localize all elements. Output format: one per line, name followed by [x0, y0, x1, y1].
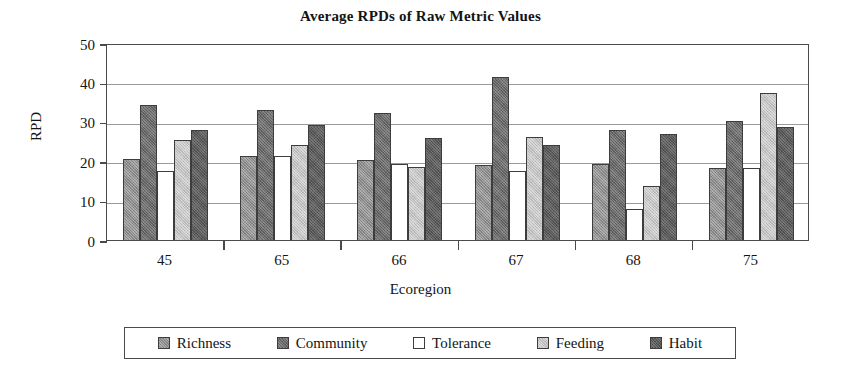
bar-community-66 [374, 113, 391, 240]
legend-item-habit[interactable]: Habit [650, 335, 702, 352]
richness-swatch [158, 337, 170, 349]
y-tick-40: 40 [80, 76, 107, 92]
tolerance-swatch [413, 337, 425, 349]
x-tick-label-45: 45 [135, 252, 195, 269]
y-tick-mark [100, 241, 107, 242]
y-tick-mark [100, 44, 107, 45]
y-tick-0: 0 [88, 234, 108, 250]
y-tick-label: 40 [80, 76, 95, 93]
bar-feeding-66 [408, 167, 425, 240]
bar-richness-68 [592, 164, 609, 240]
y-tick-mark [100, 162, 107, 163]
bar-group-65 [224, 45, 341, 240]
x-tick-label-68: 68 [603, 252, 663, 269]
x-tick-label-67: 67 [486, 252, 546, 269]
bar-habit-65 [308, 125, 325, 240]
y-tick-30: 30 [80, 116, 107, 132]
x-axis-label: Ecoregion [0, 281, 841, 298]
legend-item-feeding[interactable]: Feeding [537, 335, 604, 352]
x-tick-mark [223, 241, 224, 250]
bar-group-66 [341, 45, 458, 240]
bar-community-67 [492, 77, 509, 241]
y-tick-label: 30 [80, 115, 95, 132]
y-tick-label: 10 [80, 194, 95, 211]
bar-habit-67 [543, 145, 560, 240]
y-tick-mark [100, 123, 107, 124]
bar-group-45 [107, 45, 224, 240]
x-tick-mark [692, 241, 693, 250]
bar-tolerance-65 [274, 156, 291, 240]
legend-item-tolerance[interactable]: Tolerance [413, 335, 491, 352]
bar-habit-68 [660, 134, 677, 240]
chart-title: Average RPDs of Raw Metric Values [0, 8, 841, 25]
y-tick-20: 20 [80, 155, 107, 171]
bar-richness-65 [240, 156, 257, 240]
legend-label: Richness [177, 335, 231, 352]
bars-layer [107, 45, 808, 240]
bar-feeding-68 [643, 186, 660, 240]
bar-richness-67 [475, 165, 492, 240]
y-tick-label: 0 [88, 234, 96, 251]
bar-community-65 [257, 110, 274, 240]
bar-feeding-75 [760, 93, 777, 240]
bar-richness-45 [123, 159, 140, 240]
bar-habit-45 [191, 130, 208, 240]
y-tick-mark [100, 202, 107, 203]
x-tick-mark [575, 241, 576, 250]
y-tick-50: 50 [80, 37, 107, 53]
bar-feeding-65 [291, 145, 308, 240]
bar-feeding-45 [174, 140, 191, 240]
feeding-swatch [537, 337, 549, 349]
legend-item-community[interactable]: Community [277, 335, 368, 352]
bar-group-67 [459, 45, 576, 240]
legend-label: Community [296, 335, 368, 352]
chart-legend: RichnessCommunityToleranceFeedingHabit [124, 327, 736, 359]
x-tick-label-75: 75 [720, 252, 780, 269]
bar-group-75 [693, 45, 810, 240]
legend-label: Habit [669, 335, 702, 352]
bar-habit-66 [425, 138, 442, 240]
x-tick-mark [458, 241, 459, 250]
x-tick-mark [340, 241, 341, 250]
x-tick-label-65: 65 [252, 252, 312, 269]
plot-area: 01020304050 [106, 44, 809, 241]
bar-community-45 [140, 105, 157, 240]
community-swatch [277, 337, 289, 349]
bar-richness-75 [709, 168, 726, 240]
x-tick-label-66: 66 [369, 252, 429, 269]
bar-tolerance-67 [509, 171, 526, 240]
bar-habit-75 [777, 127, 794, 240]
bar-feeding-67 [526, 137, 543, 240]
bar-chart: Average RPDs of Raw Metric Values RPD 01… [0, 0, 841, 371]
legend-label: Feeding [556, 335, 604, 352]
habit-swatch [650, 337, 662, 349]
bar-tolerance-68 [626, 209, 643, 240]
legend-item-richness[interactable]: Richness [158, 335, 231, 352]
y-tick-label: 50 [80, 37, 95, 54]
y-tick-label: 20 [80, 155, 95, 172]
legend-label: Tolerance [432, 335, 491, 352]
bar-community-68 [609, 130, 626, 240]
y-tick-10: 10 [80, 195, 107, 211]
bar-community-75 [726, 121, 743, 240]
y-tick-mark [100, 84, 107, 85]
bar-tolerance-45 [157, 171, 174, 240]
bar-tolerance-75 [743, 168, 760, 240]
y-axis-label: RPD [28, 97, 45, 157]
bar-tolerance-66 [391, 164, 408, 240]
bar-group-68 [576, 45, 693, 240]
bar-richness-66 [357, 160, 374, 240]
